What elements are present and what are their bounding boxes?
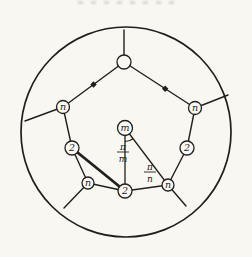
fraction-numerator-pi-over-m: π bbox=[119, 142, 127, 152]
node-circle-top bbox=[117, 55, 131, 69]
node-label-center-m: m bbox=[120, 122, 129, 133]
node-label-lower-right-n: n bbox=[165, 179, 171, 190]
node-label-left-2: 2 bbox=[68, 142, 75, 153]
angle-arc bbox=[125, 139, 133, 142]
fraction-denominator-pi-over-n: n bbox=[147, 174, 153, 184]
fraction-numerator-pi-over-n: π bbox=[146, 162, 154, 172]
node-label-upper-left-n: n bbox=[60, 101, 66, 112]
edge-top-upper-right-n bbox=[124, 62, 195, 108]
scanned-figure-page: nn22nn2mπmπn bbox=[0, 0, 252, 257]
node-label-upper-right-n: n bbox=[192, 102, 198, 113]
edge-left-2-bottom-2 bbox=[72, 148, 125, 191]
diagram-svg: nn22nn2mπmπn bbox=[0, 0, 252, 257]
node-label-bottom-2: 2 bbox=[121, 185, 128, 196]
fraction-denominator-pi-over-m: m bbox=[119, 154, 128, 164]
node-label-lower-left-n: n bbox=[85, 177, 91, 188]
node-label-right-2: 2 bbox=[183, 142, 190, 153]
